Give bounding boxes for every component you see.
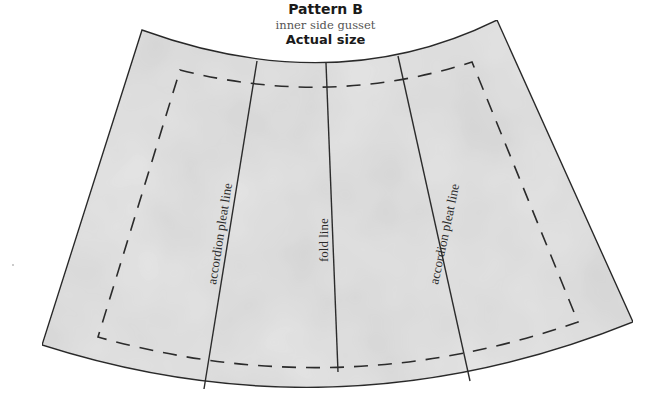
pattern-diagram: accordion pleat line fold line accordion… (0, 0, 651, 409)
pattern-title: Pattern B (0, 1, 651, 18)
pattern-sheet: accordion pleat line fold line accordion… (0, 0, 651, 409)
pattern-subtitle: inner side gusset (0, 18, 651, 32)
stray-mark (12, 264, 14, 266)
fold-line-label: fold line (316, 218, 331, 262)
title-block: Pattern B inner side gusset Actual size (0, 0, 651, 48)
size-note: Actual size (0, 32, 651, 48)
